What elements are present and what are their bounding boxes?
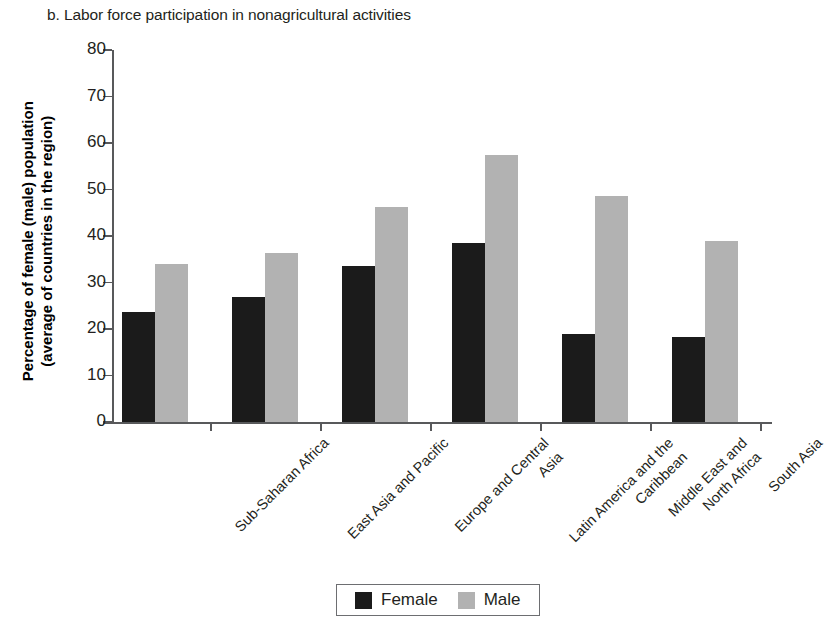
x-category-label-5: South Asia <box>764 434 827 497</box>
x-tick-mark <box>650 422 652 431</box>
y-tick-label: 60 <box>66 132 106 152</box>
x-tick-mark <box>430 422 432 431</box>
x-tick-mark <box>320 422 322 431</box>
y-tick-label: 70 <box>66 86 106 106</box>
bar-male-1 <box>265 253 298 422</box>
legend-swatch-female <box>355 592 372 609</box>
panel-caption: b. Labor force participation in nonagric… <box>47 6 411 24</box>
x-tick-mark <box>210 422 212 431</box>
bar-male-3 <box>485 155 518 422</box>
y-tick-label: 10 <box>66 365 106 385</box>
x-tick-mark <box>540 422 542 431</box>
bar-female-4 <box>562 334 595 422</box>
y-tick-label: 0 <box>66 411 106 431</box>
bar-male-5 <box>705 241 738 422</box>
legend-item-male[interactable]: Male <box>458 590 521 610</box>
plot-area: 80706050403020100 <box>112 50 772 422</box>
y-axis-title: Percentage of female (male) population (… <box>18 41 56 441</box>
x-category-label-line: South Asia <box>764 434 827 497</box>
y-tick-label: 30 <box>66 272 106 292</box>
legend-label: Female <box>381 590 438 610</box>
x-category-label-2: Europe and CentralAsia <box>451 434 568 551</box>
y-axis-title-line-1: Percentage of female (male) population <box>18 41 37 441</box>
y-tick-label: 80 <box>66 39 106 59</box>
bar-female-0 <box>122 312 155 422</box>
legend: FemaleMale <box>336 584 540 616</box>
bar-male-4 <box>595 196 628 422</box>
bar-female-2 <box>342 266 375 422</box>
y-axis-line <box>112 50 114 422</box>
y-tick-label: 50 <box>66 179 106 199</box>
bar-male-0 <box>155 264 188 422</box>
x-category-label-0: Sub-Saharan Africa <box>231 434 334 537</box>
bar-female-1 <box>232 297 265 422</box>
legend-label: Male <box>484 590 521 610</box>
y-tick-label: 20 <box>66 318 106 338</box>
x-axis-line <box>103 422 772 424</box>
x-category-label-line: East Asia and Pacific <box>344 434 454 544</box>
y-axis-title-line-2: (average of countries in the region) <box>37 41 56 441</box>
legend-swatch-male <box>458 592 475 609</box>
x-category-label-line: Sub-Saharan Africa <box>231 434 334 537</box>
bar-male-2 <box>375 207 408 422</box>
legend-item-female[interactable]: Female <box>355 590 438 610</box>
x-category-label-1: East Asia and Pacific <box>344 434 454 544</box>
bar-female-3 <box>452 243 485 422</box>
y-tick-label: 40 <box>66 225 106 245</box>
x-tick-mark <box>760 422 762 431</box>
bar-female-5 <box>672 337 705 422</box>
